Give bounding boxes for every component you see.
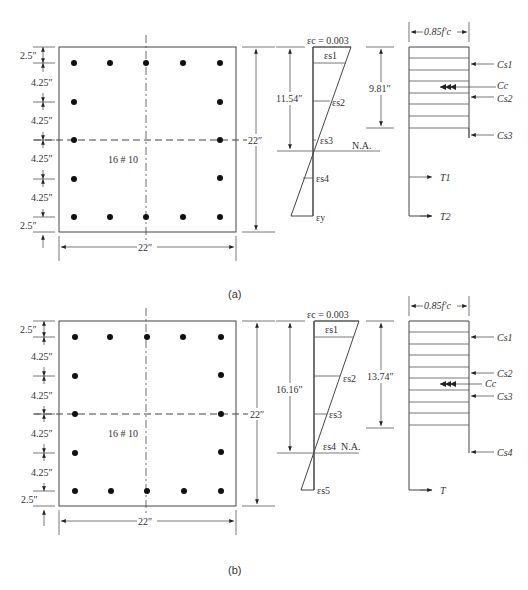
height-dimension: 22″ (248, 135, 262, 146)
stress-block-label: 0.85f′c (424, 26, 451, 37)
rebar (72, 334, 78, 340)
strain-level-label: εs4 (316, 173, 329, 184)
rebar (72, 488, 78, 494)
rebar (107, 214, 113, 220)
rebar (180, 60, 186, 66)
rebar (72, 373, 78, 379)
force-label: Cc (485, 378, 497, 389)
depth-a-label: 13.74″ (367, 371, 394, 382)
rebar (218, 488, 224, 494)
depth-c-label: 16.16″ (276, 384, 303, 395)
panel-b: 16 # 10 2.5″ 4.25″ (20, 296, 513, 576)
bars-label: 16 # 10 (108, 428, 138, 439)
strain-level-label: εs2 (332, 97, 345, 108)
bars-label: 16 # 10 (108, 154, 138, 165)
panel-a: 16 # 10 2.5″ 4.2 (20, 22, 513, 300)
width-dimension: 22″ (138, 242, 152, 253)
rebar (71, 137, 77, 143)
panel-caption: (b) (228, 564, 241, 576)
rebar (217, 60, 223, 66)
dim-spacing: 4.25″ (31, 192, 53, 203)
rebar (72, 450, 78, 456)
rebar (108, 488, 114, 494)
force-label: Cs2 (497, 368, 513, 379)
depth-c-label: 11.54″ (276, 93, 302, 104)
strain-level-label: εs3 (320, 135, 333, 146)
stress-diagram-b: 0.85f′c Cs1 Cs2 Cc Cs3 Cs4 T (409, 296, 513, 496)
rebar (180, 214, 186, 220)
dim-spacing: 4.25″ (31, 428, 53, 439)
dim-cover-bottom: 2.5″ (21, 494, 38, 505)
strain-level-label: εs3 (329, 409, 342, 420)
strain-top-label: εc = 0.003 (307, 309, 349, 320)
rebar (72, 411, 78, 417)
neutral-axis-label: N.A. (341, 441, 360, 452)
rebar (71, 60, 77, 66)
rebar (71, 214, 77, 220)
force-label: T2 (440, 211, 451, 222)
strain-diagram-b: εc = 0.003 εs1 εs2 εs3 εs4 εs5 N.A. 16.1… (274, 309, 398, 496)
force-label: T (440, 485, 447, 496)
dim-cover-top: 2.5″ (20, 50, 37, 61)
stress-diagram-a: 0.85f′c Cs1 Cc Cs2 Cs3 T1 T2 (409, 22, 513, 222)
force-label: Cs1 (497, 332, 513, 343)
dim-spacing: 4.25″ (31, 77, 53, 88)
stress-block-label: 0.85f′c (424, 300, 451, 311)
rebar (217, 99, 223, 105)
strain-level-label: εs1 (324, 50, 337, 61)
strain-level-label: εy (316, 212, 325, 223)
left-dimensions: 2.5″ 4.25″ 4.25″ 4.25″ 4.25″ 2.5″ (20, 47, 55, 248)
cross-section-a: 16 # 10 2.5″ 4.2 (20, 35, 275, 261)
rebar (143, 60, 149, 66)
rebar (143, 214, 149, 220)
width-dimension: 22″ (138, 516, 152, 527)
rebar (218, 334, 224, 340)
force-label: Cs3 (497, 391, 513, 402)
force-label: Cs4 (497, 447, 513, 458)
force-label: Cs3 (497, 130, 513, 141)
rebar (71, 99, 77, 105)
strain-level-label: εs2 (343, 373, 356, 384)
dim-spacing: 4.25″ (31, 115, 53, 126)
depth-a-label: 9.81″ (369, 83, 391, 94)
rebar (217, 175, 223, 181)
rebar (71, 176, 77, 182)
strain-top-label: εc = 0.003 (307, 35, 349, 46)
rebar (218, 411, 224, 417)
rebar (107, 60, 113, 66)
dim-spacing: 4.25″ (31, 351, 53, 362)
force-label: Cc (497, 80, 509, 91)
left-dimensions: 2.5″ 4.25″ 4.25″ 4.25″ 4.25″ 2.5″ (20, 321, 55, 526)
height-dimension: 22″ (250, 409, 264, 420)
force-label: Cs2 (497, 93, 513, 104)
force-label: Cs1 (497, 59, 513, 70)
rebar (218, 449, 224, 455)
panel-caption: (a) (228, 288, 241, 300)
force-label: T1 (440, 172, 451, 183)
rebar (217, 214, 223, 220)
dim-spacing: 4.25″ (31, 153, 53, 164)
neutral-axis-label: N.A. (352, 140, 371, 151)
strain-level-label: εs4 (323, 441, 336, 452)
strain-diagram-a: εc = 0.003 εs1 εs2 εs3 εs4 εy N.A. 11.54… (274, 35, 395, 223)
rebar (218, 372, 224, 378)
rebar (107, 334, 113, 340)
cross-section-b: 16 # 10 2.5″ 4.25″ (20, 308, 275, 535)
column-interaction-diagram: 16 # 10 2.5″ 4.2 (0, 0, 528, 590)
rebar (181, 488, 187, 494)
dim-cover-bottom: 2.5″ (20, 220, 37, 231)
dim-spacing: 4.25″ (31, 390, 53, 401)
strain-level-label: εs5 (317, 485, 330, 496)
rebar (180, 334, 186, 340)
strain-level-label: εs1 (325, 324, 338, 335)
rebar (144, 334, 150, 340)
rebar (144, 488, 150, 494)
rebar (217, 137, 223, 143)
dim-spacing: 4.25″ (31, 467, 53, 478)
dim-cover-top: 2.5″ (20, 324, 37, 335)
